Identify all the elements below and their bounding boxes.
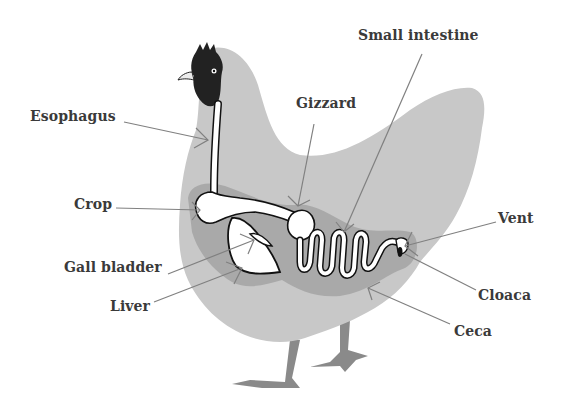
- label-crop: Crop: [74, 197, 112, 211]
- label-esophagus: Esophagus: [30, 109, 116, 123]
- label-ceca: Ceca: [454, 324, 492, 338]
- chicken-digestive-diagram: Esophagus Crop Gall bladder Liver Gizzar…: [0, 0, 570, 410]
- vent-organ: [398, 247, 403, 257]
- label-vent: Vent: [498, 211, 534, 225]
- label-cloaca: Cloaca: [478, 288, 531, 302]
- label-small-intestine: Small intestine: [358, 28, 479, 42]
- label-gizzard: Gizzard: [296, 96, 356, 110]
- label-gall-bladder: Gall bladder: [64, 260, 162, 274]
- label-liver: Liver: [110, 299, 150, 313]
